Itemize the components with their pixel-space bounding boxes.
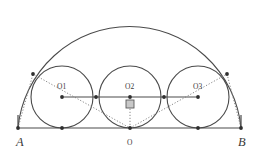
- point-label-O1: O1: [57, 82, 66, 91]
- point-marker-T_B: [196, 126, 200, 130]
- point-label-O: O: [127, 138, 133, 147]
- geometry-canvas: A B O O1 O2 O3: [0, 0, 259, 152]
- point-marker-O: [128, 126, 132, 130]
- point-label-B: B: [238, 135, 246, 149]
- point-marker-T_A: [60, 126, 64, 130]
- point-marker-P_right: [225, 72, 229, 76]
- point-marker-P_left: [31, 72, 35, 76]
- point-marker-O2: [128, 95, 132, 99]
- point-marker-B: [239, 126, 243, 130]
- point-marker-O3: [196, 95, 200, 99]
- point-marker-Q_right: [162, 95, 166, 99]
- geometry-figure: A B O O1 O2 O3: [0, 0, 259, 152]
- point-label-A: A: [15, 135, 24, 149]
- point-marker-O1: [60, 95, 64, 99]
- O-to-P-right: [130, 74, 227, 128]
- point-label-O2: O2: [125, 82, 134, 91]
- P-left-to-O: [33, 74, 130, 128]
- point-marker-Q_left: [94, 95, 98, 99]
- right-angle-marker: [126, 100, 134, 108]
- point-marker-A: [16, 126, 20, 130]
- point-label-O3: O3: [193, 82, 202, 91]
- semicircle-arc: [18, 27, 241, 128]
